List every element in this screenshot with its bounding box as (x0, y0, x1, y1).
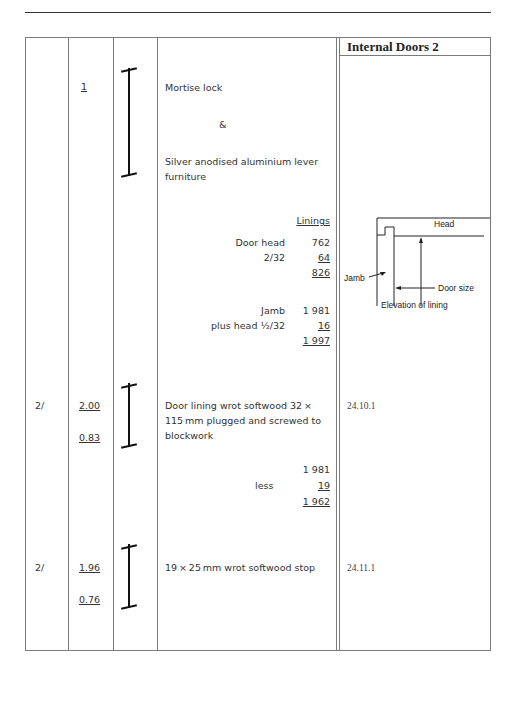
diagram-caption: Elevation of lining (381, 300, 448, 310)
description-line: 19 × 25 mm wrot softwood stop (165, 562, 315, 573)
item-bracket (128, 544, 130, 608)
dimension-value: 1.96 (79, 562, 100, 573)
bill-of-quantities-sheet: Internal Doors 2 1 Mortise lock & Silver… (25, 37, 491, 651)
column-rule-right (490, 37, 491, 651)
waste-total: 1 997 (285, 335, 330, 346)
waste-label: Jamb (175, 305, 285, 316)
description-line: & (219, 119, 226, 130)
page-top-rule (25, 12, 491, 13)
waste-total: 826 (290, 267, 330, 278)
item-bracket (128, 68, 130, 176)
bracket-tick-bottom (121, 443, 137, 448)
waste-value: 19 (275, 480, 330, 491)
description-line: furniture (165, 171, 206, 182)
column-rule-timesing (68, 37, 69, 651)
bracket-tick-bottom (121, 172, 137, 177)
description-line: blockwork (165, 430, 213, 441)
diagram-label-door-size: Door size (438, 283, 474, 293)
waste-value: 1 981 (285, 305, 330, 316)
description-line: Door lining wrot softwood 32 × (165, 400, 312, 411)
sheet-top-border (25, 37, 491, 38)
column-rule-left (25, 37, 26, 651)
dimension-value: 1 (81, 81, 87, 92)
waste-value: 64 (290, 252, 330, 263)
waste-value: 16 (285, 320, 330, 331)
description-line: 115 mm plugged and screwed to (165, 415, 321, 426)
waste-label: plus head ½/32 (145, 320, 285, 331)
dimension-value: 0.83 (79, 432, 100, 443)
column-rule-description (336, 37, 337, 651)
bracket-tick-bottom (121, 604, 137, 609)
waste-heading: Linings (265, 215, 330, 226)
description-line: Silver anodised aluminium lever (165, 156, 318, 167)
section-title: Internal Doors 2 (347, 39, 439, 55)
waste-label: 2/32 (175, 252, 285, 263)
waste-value: 762 (290, 237, 330, 248)
timesing-value: 2/ (35, 562, 44, 573)
column-rule-dimension (113, 37, 114, 651)
waste-value: 1 981 (275, 464, 330, 475)
waste-label: Door head (175, 237, 285, 248)
sheet-bottom-border (25, 650, 491, 651)
description-line: Mortise lock (165, 82, 222, 93)
elevation-of-lining-diagram (339, 197, 490, 347)
header-underline (339, 55, 490, 56)
diagram-label-head: Head (434, 219, 454, 229)
waste-total: 1 962 (275, 496, 330, 507)
waste-label: less (255, 480, 273, 491)
dimension-value: 0.76 (79, 594, 100, 605)
dimension-value: 2.00 (79, 400, 100, 411)
diagram-label-jamb: Jamb (344, 273, 365, 283)
timesing-value: 2/ (35, 400, 44, 411)
reference-code: 24.11.1 (347, 563, 375, 573)
item-bracket (128, 383, 130, 447)
column-rule-squaring (157, 37, 158, 651)
reference-code: 24.10.1 (347, 401, 376, 411)
